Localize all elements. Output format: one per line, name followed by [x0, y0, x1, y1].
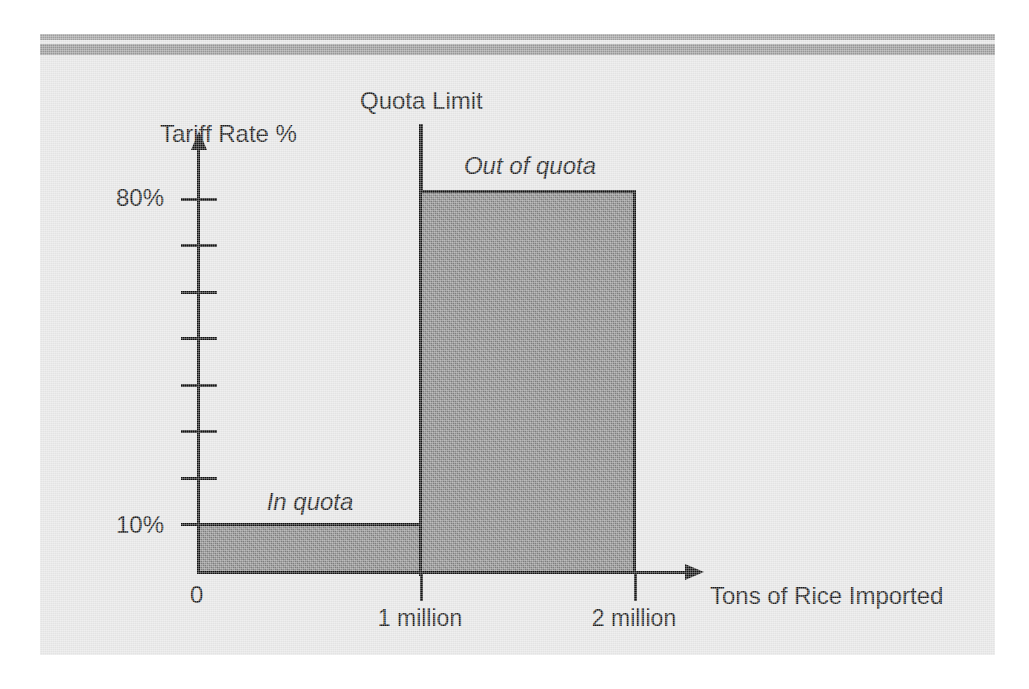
out-of-quota-annotation-label: Out of quota	[464, 154, 596, 178]
y-axis-tick-20	[181, 477, 217, 480]
y-axis-tick-40	[181, 384, 217, 387]
x-axis-tick-label-2-million: 2 million	[592, 607, 676, 630]
x-axis-line	[197, 571, 691, 574]
y-axis-title: Tariff Rate %	[160, 122, 297, 146]
y-axis-tick-10	[181, 523, 217, 526]
x-axis-title: Tons of Rice Imported	[710, 584, 943, 608]
y-axis-tick-80	[181, 198, 217, 201]
y-axis-tick-30	[181, 430, 217, 433]
y-axis-tick-label-80: 80%	[116, 186, 164, 210]
y-axis-tick-label-10: 10%	[116, 513, 164, 537]
in-quota-region	[197, 523, 423, 574]
plot-area: Tariff Rate % Tons of Rice Imported Quot…	[40, 34, 995, 655]
y-axis-tick-70	[181, 244, 217, 247]
x-axis-tick-1-million	[420, 574, 423, 601]
y-axis-tick-60	[181, 291, 217, 294]
in-quota-annotation-label: In quota	[267, 490, 354, 514]
x-axis-arrow-icon	[685, 564, 704, 580]
out-of-quota-region-texture	[422, 193, 633, 571]
out-of-quota-region	[419, 190, 636, 574]
x-axis-tick-2-million	[634, 574, 637, 601]
y-axis-tick-50	[181, 337, 217, 340]
quota-limit-label: Quota Limit	[360, 89, 483, 113]
x-axis-origin-label: 0	[190, 583, 203, 607]
in-quota-region-texture	[200, 526, 420, 571]
x-axis-tick-label-1-million: 1 million	[378, 607, 462, 630]
y-axis-line	[197, 146, 200, 573]
chart-figure-panel: Tariff Rate % Tons of Rice Imported Quot…	[40, 34, 995, 655]
